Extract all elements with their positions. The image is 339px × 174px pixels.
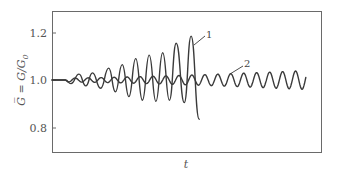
y-tick-label-1.2: 1.2 bbox=[30, 27, 48, 40]
y-axis-label: G̅ = G/G0 bbox=[14, 54, 30, 105]
x-axis-label: t bbox=[184, 158, 189, 171]
y-tick-label-1.0: 1.0 bbox=[30, 74, 48, 87]
chart: 1.2 1.0 0.8 G̅ = G/G0 t 1 2 bbox=[0, 0, 339, 174]
curve-1-leader-line bbox=[194, 36, 205, 45]
y-axis-label-main: G̅ = G/G bbox=[14, 59, 28, 105]
y-axis-label-subscript: 0 bbox=[21, 54, 30, 59]
svg-text:G̅ = G/G0: G̅ = G/G0 bbox=[14, 54, 30, 105]
y-tick-label-0.8: 0.8 bbox=[30, 122, 48, 135]
curve-1-label: 1 bbox=[206, 29, 212, 40]
curve-2 bbox=[52, 71, 306, 89]
curve-2-leader-line bbox=[230, 66, 243, 74]
curve-2-label: 2 bbox=[244, 58, 250, 69]
